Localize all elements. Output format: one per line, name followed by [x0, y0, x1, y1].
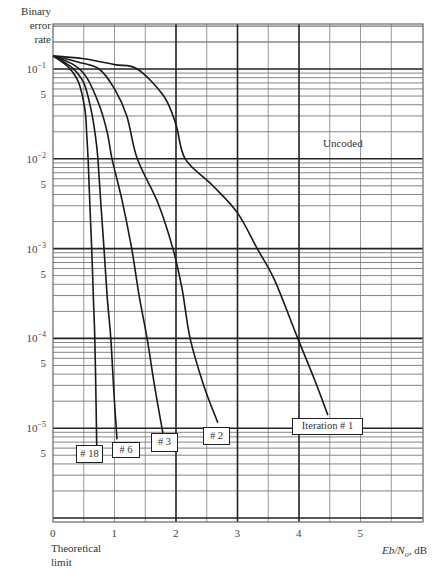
- y-tick-label: 5: [6, 88, 46, 100]
- curve-label-box: # 6: [112, 442, 140, 458]
- x-axis-title: Eb/Νo, dB: [382, 544, 427, 561]
- curve-2: [53, 56, 218, 423]
- curve-label-box: Iteration # 1: [292, 418, 363, 435]
- x-tick-label: 2: [173, 527, 179, 539]
- y-axis-title: Binary error rate: [6, 4, 51, 46]
- theoretical-limit-annotation: Theoretical limit: [51, 541, 111, 569]
- x-tick-label: 0: [50, 527, 56, 539]
- y-tick-label: 5: [6, 357, 46, 369]
- theoretical-line1: Theoretical: [51, 541, 111, 555]
- x-title-unit: , dB: [409, 544, 427, 556]
- curve-label-box: # 3: [151, 433, 178, 452]
- y-tick-label: 10−4: [6, 330, 46, 344]
- y-tick-label: 10−5: [6, 420, 46, 434]
- curve-iteration-1: [53, 56, 328, 415]
- uncoded-annotation: Uncoded: [323, 137, 363, 150]
- y-tick-label: 5: [6, 447, 46, 459]
- curve-label-box: # 2: [203, 427, 230, 445]
- ber-chart: [0, 0, 445, 577]
- y-tick-label: 5: [6, 178, 46, 190]
- curve-label-box: # 18: [76, 445, 103, 463]
- y-tick-label: 10−3: [6, 241, 46, 255]
- x-tick-label: 4: [296, 527, 302, 539]
- y-title-line2: error: [6, 18, 51, 32]
- curve-18: [53, 56, 97, 445]
- ber-curves: [53, 56, 328, 445]
- y-tick-label: 10−2: [6, 151, 46, 165]
- y-tick-label: 5: [6, 268, 46, 280]
- grid-major-lines: [53, 24, 423, 522]
- y-title-line3: rate: [6, 32, 51, 46]
- x-tick-label: 3: [235, 527, 241, 539]
- y-tick-label: 10−1: [6, 61, 46, 75]
- x-title-main: Eb/Ν: [382, 544, 405, 556]
- curve-3: [53, 56, 163, 435]
- y-title-line1: Binary: [6, 4, 51, 18]
- x-tick-label: 1: [112, 527, 118, 539]
- theoretical-line2: limit: [51, 555, 111, 569]
- x-tick-label: 5: [358, 527, 364, 539]
